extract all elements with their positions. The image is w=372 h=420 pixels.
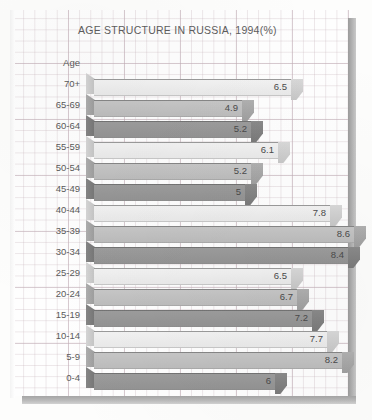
category-label: 20-24	[14, 283, 80, 304]
bar: 6.1	[86, 136, 290, 157]
axis-title-label: Age	[14, 52, 80, 73]
bar-value-label: 5	[211, 184, 241, 199]
bar-row: 10-147.7	[14, 325, 352, 346]
bar-row: 60-645.2	[14, 115, 352, 136]
bar: 5.2	[86, 115, 263, 136]
bar: 4.9	[86, 94, 254, 115]
bar: 6.5	[86, 73, 303, 94]
category-label: 55-59	[14, 136, 80, 157]
category-label: 60-64	[14, 115, 80, 136]
bar-value-label: 7.2	[278, 310, 308, 325]
page-bottom-border	[22, 396, 356, 404]
bar-value-label: 6	[241, 373, 271, 388]
category-label: 45-49	[14, 178, 80, 199]
bar-row: 45-495	[14, 178, 352, 199]
bar-value-label: 6.5	[257, 268, 287, 283]
bar-value-label: 5.2	[217, 121, 247, 136]
bar-row: 50-545.2	[14, 157, 352, 178]
category-label: 0-4	[14, 367, 80, 388]
bar: 6.5	[86, 262, 303, 283]
bar-row: 15-197.2	[14, 304, 352, 325]
bar: 7.7	[86, 325, 339, 346]
bar: 7.2	[86, 304, 324, 325]
bar-row: 55-596.1	[14, 136, 352, 157]
bar: 7.8	[86, 199, 342, 220]
bar: 6	[86, 367, 287, 388]
axis-title-row: Age	[14, 52, 352, 73]
category-label: 65-69	[14, 94, 80, 115]
bar-value-label: 6.5	[257, 79, 287, 94]
bar-chart-plot: Age 70+6.565-694.960-645.255-596.150-545…	[14, 52, 352, 388]
bar-value-label: 5.2	[217, 163, 247, 178]
bar-row: 40-447.8	[14, 199, 352, 220]
scanned-page: AGE STRUCTURE IN RUSSIA, 1994(%) Age 70+…	[0, 0, 372, 420]
bar: 8.6	[86, 220, 366, 241]
bar-value-label: 4.9	[208, 100, 238, 115]
bar-row: 65-694.9	[14, 94, 352, 115]
bar-row: 20-246.7	[14, 283, 352, 304]
bar-value-label: 8.2	[308, 352, 338, 367]
category-label: 70+	[14, 73, 80, 94]
bar-row: 0-46	[14, 367, 352, 388]
category-label: 25-29	[14, 262, 80, 283]
category-label: 50-54	[14, 157, 80, 178]
bar-value-label: 6.1	[244, 142, 274, 157]
bar: 5	[86, 178, 257, 199]
bar-row: 30-348.4	[14, 241, 352, 262]
category-label: 30-34	[14, 241, 80, 262]
category-label: 15-19	[14, 304, 80, 325]
bar-value-label: 6.7	[263, 289, 293, 304]
bar-row: 25-296.5	[14, 262, 352, 283]
category-label: 10-14	[14, 325, 80, 346]
bar: 5.2	[86, 157, 263, 178]
bar-row: 5-98.2	[14, 346, 352, 367]
category-label: 5-9	[14, 346, 80, 367]
bar-value-label: 7.7	[293, 331, 323, 346]
bar-value-label: 7.8	[296, 205, 326, 220]
bar-row: 70+6.5	[14, 73, 352, 94]
bar-row: 35-398.6	[14, 220, 352, 241]
bar-value-label: 8.6	[320, 226, 350, 241]
category-label: 40-44	[14, 199, 80, 220]
bar: 6.7	[86, 283, 309, 304]
bar-value-label: 8.4	[314, 247, 344, 262]
category-label: 35-39	[14, 220, 80, 241]
chart-title: AGE STRUCTURE IN RUSSIA, 1994(%)	[78, 24, 277, 36]
bar: 8.2	[86, 346, 354, 367]
bar: 8.4	[86, 241, 360, 262]
